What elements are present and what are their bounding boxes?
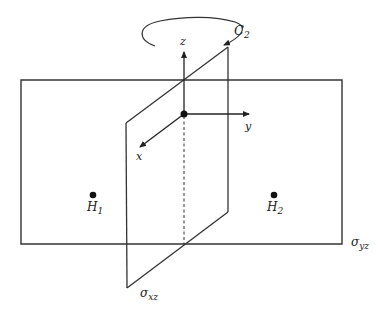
atom-h1-label: H1	[86, 200, 103, 216]
atom-h1-dot	[90, 192, 97, 199]
plane-sigma-yz	[21, 80, 342, 244]
plane-sigma-xz	[126, 47, 228, 288]
origin-dot	[181, 111, 188, 118]
c2v-symmetry-diagram: C2 z y x H1 H2 σyz σxz	[0, 0, 384, 312]
x-axis	[140, 114, 184, 147]
atom-h2-label: H2	[266, 200, 283, 216]
y-axis-label: y	[244, 120, 252, 133]
x-axis-label: x	[136, 150, 143, 163]
sigma-xz-label: σxz	[140, 286, 158, 302]
sigma-yz-label: σyz	[351, 235, 369, 251]
c2-rotation-arrow-icon	[142, 17, 242, 46]
atom-h2-dot	[271, 192, 278, 199]
c2-label: C2	[234, 23, 250, 40]
z-axis-label: z	[179, 35, 186, 48]
